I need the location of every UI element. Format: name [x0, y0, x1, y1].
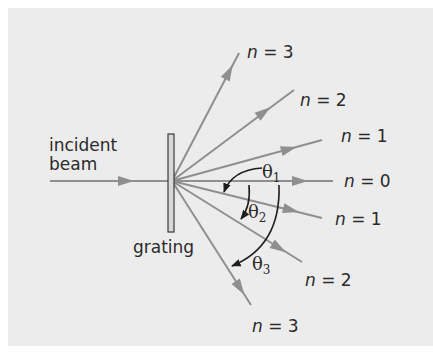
order-label-n3-up: n = 3 — [247, 42, 294, 62]
ray-n1-up — [172, 140, 322, 181]
order-label-n3-down: n = 3 — [252, 316, 299, 336]
order-label-n0: n = 0 — [344, 171, 391, 191]
order-label-n2-up: n = 2 — [300, 90, 347, 110]
grating-label: grating — [133, 237, 194, 257]
grating — [168, 134, 174, 232]
ray-n1-down — [172, 181, 322, 218]
order-label-n1-up: n = 1 — [341, 126, 388, 146]
arrow-icon — [118, 176, 134, 186]
order-label-n1-down: n = 1 — [335, 209, 382, 229]
ray-n2-up — [172, 90, 294, 181]
incident-label-line2: beam — [49, 154, 97, 174]
order-label-n2-down: n = 2 — [305, 270, 352, 290]
diffraction-diagram: incident beam grating n = 3 n = 2 n = 1 … — [0, 0, 433, 353]
incident-beam — [50, 176, 172, 186]
theta3-label: θ3 — [252, 253, 270, 277]
theta1-label: θ1 — [262, 161, 280, 185]
incident-label-line1: incident — [49, 135, 118, 155]
